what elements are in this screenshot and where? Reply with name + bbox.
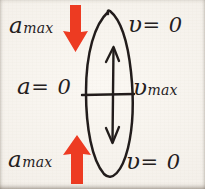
handwritten-diagram-canvas: amax υ= 0 a= 0 υmax amax υ= 0 — [0, 0, 205, 189]
scan-edge-shadow — [0, 0, 205, 189]
